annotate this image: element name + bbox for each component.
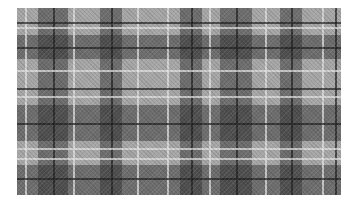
weave-texture	[17, 8, 341, 195]
plaid-pattern	[17, 8, 341, 195]
